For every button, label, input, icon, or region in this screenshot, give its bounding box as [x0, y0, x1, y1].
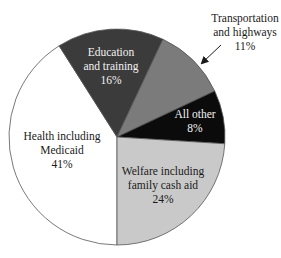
- label-text: Welfare including: [122, 165, 205, 178]
- slice-welfare-including-family-cash-aid: [117, 137, 225, 245]
- callout-arrows: [202, 45, 221, 63]
- label-percent: 11%: [235, 40, 256, 52]
- label-text: Transportation: [211, 12, 279, 25]
- label-text: family cash aid: [128, 179, 199, 192]
- label-percent: 16%: [100, 74, 122, 86]
- label-percent: 8%: [187, 122, 203, 134]
- label-percent: 41%: [51, 158, 73, 170]
- pie-chart: Health includingMedicaid41%Educationand …: [0, 0, 281, 258]
- label-text: All other: [174, 108, 215, 120]
- label-text: and highways: [213, 26, 277, 39]
- label-text: Health including: [24, 130, 101, 143]
- label-text: Medicaid: [40, 144, 84, 156]
- label-percent: 24%: [152, 193, 174, 205]
- label-text: and training: [83, 60, 138, 73]
- callout-arrow-icon: [202, 45, 221, 63]
- label-transportation-and-highways: Transportationand highways11%: [211, 12, 279, 52]
- label-text: Education: [88, 46, 135, 58]
